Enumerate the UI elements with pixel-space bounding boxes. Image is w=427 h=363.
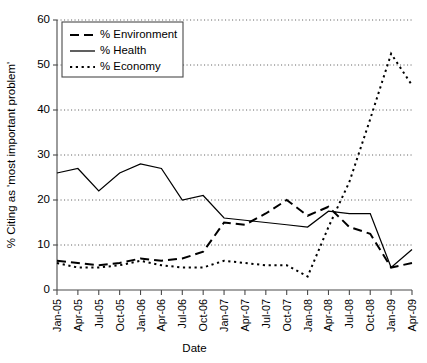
y-axis-tick-label: 50 — [37, 58, 50, 70]
line-chart: 0102030405060Jan-05Apr-05Jul-05Oct-05Jan… — [0, 0, 427, 363]
series-line-health — [57, 164, 412, 268]
x-axis-tick-label: Apr-08 — [322, 299, 334, 331]
y-axis-tick-label: 10 — [37, 238, 50, 250]
x-axis-tick-label: Jul-07 — [260, 299, 272, 328]
x-axis-tick-label: Jul-08 — [343, 299, 355, 328]
x-axis-tick-label: Jan-08 — [302, 299, 314, 332]
x-axis-title: Date — [182, 342, 206, 354]
y-axis-tick-label: 20 — [37, 193, 50, 205]
y-axis-tick-label: 30 — [37, 148, 50, 160]
y-axis-tick-label: 60 — [37, 13, 50, 25]
x-axis-tick-label: Jul-06 — [176, 299, 188, 328]
series-line-economy — [57, 54, 412, 277]
y-axis-tick-label: 40 — [37, 103, 50, 115]
x-axis-tick-label: Jan-09 — [385, 299, 397, 332]
x-axis-tick-label: Apr-07 — [239, 299, 251, 331]
x-axis-tick-label: Oct-05 — [114, 299, 126, 331]
x-axis-tick-label: Jan-06 — [135, 299, 147, 332]
y-axis-title: % Citing as 'most important problem' — [5, 62, 17, 249]
legend-label: % Health — [100, 44, 146, 56]
series-line-environment — [57, 200, 412, 268]
x-axis-tick-label: Jan-07 — [218, 299, 230, 332]
x-axis-tick-label: Jan-05 — [51, 299, 63, 332]
x-axis-tick-label: Apr-09 — [406, 299, 418, 331]
x-axis-tick-label: Apr-06 — [155, 299, 167, 331]
x-axis-tick-label: Oct-06 — [197, 299, 209, 331]
legend-label: % Economy — [100, 60, 161, 72]
chart-container: 0102030405060Jan-05Apr-05Jul-05Oct-05Jan… — [0, 0, 427, 363]
x-axis-tick-label: Apr-05 — [72, 299, 84, 331]
x-axis-tick-label: Oct-08 — [364, 299, 376, 331]
x-axis-tick-label: Oct-07 — [281, 299, 293, 331]
y-axis-tick-label: 0 — [44, 283, 50, 295]
x-axis-tick-label: Jul-05 — [93, 299, 105, 328]
legend-label: % Environment — [100, 28, 178, 40]
